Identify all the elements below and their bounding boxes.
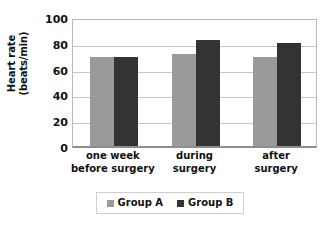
x-axis-category-label-line2: surgery: [229, 163, 323, 176]
x-axis-category-label-line1: one week: [86, 150, 140, 161]
legend-label-group-a: Group A: [118, 198, 164, 208]
plot-area: [72, 19, 317, 148]
legend-swatch-icon-group-b: [177, 200, 184, 207]
y-axis-title-line2: (beats/min): [17, 9, 29, 119]
legend-entry-group-a: Group A: [107, 198, 164, 208]
y-axis-tick-labels: 020406080100: [36, 19, 68, 148]
x-axis-category-label: aftersurgery: [229, 150, 323, 175]
bar-group-a: [172, 54, 196, 146]
x-axis-category-label: duringsurgery: [148, 150, 242, 175]
x-axis-category-label: one weekbefore surgery: [66, 150, 160, 175]
y-axis-tick-label: 20: [36, 117, 68, 128]
bar-group-a: [90, 57, 114, 146]
legend-entry-group-b: Group B: [177, 198, 233, 208]
legend-swatch-icon-group-a: [107, 200, 114, 207]
y-axis-title-line1: Heart rate: [6, 35, 17, 92]
y-axis-tick-label: 60: [36, 65, 68, 76]
x-axis-category-label-line2: before surgery: [66, 163, 160, 176]
bar-group-b: [196, 40, 220, 146]
y-axis-tick-label: 80: [36, 39, 68, 50]
y-axis-tick-label: 100: [36, 14, 68, 25]
y-axis-tick-label: 0: [36, 143, 68, 154]
bar-group-a: [253, 57, 277, 146]
x-axis-category-label-line1: during: [176, 150, 213, 161]
y-axis-title: Heart rate (beats/min): [6, 9, 29, 119]
x-axis-category-label-line2: surgery: [148, 163, 242, 176]
bar-chart: Heart rate (beats/min) 020406080100 one …: [0, 0, 332, 227]
x-axis-category-label-line1: after: [262, 150, 290, 161]
legend-label-group-b: Group B: [188, 198, 233, 208]
bars-layer: [73, 20, 316, 146]
x-axis-category-labels: one weekbefore surgeryduringsurgeryafter…: [72, 150, 317, 184]
bar-group-b: [114, 57, 138, 146]
bar-group-b: [277, 43, 301, 146]
y-axis-tick-label: 40: [36, 91, 68, 102]
chart-legend: Group A Group B: [96, 192, 244, 214]
